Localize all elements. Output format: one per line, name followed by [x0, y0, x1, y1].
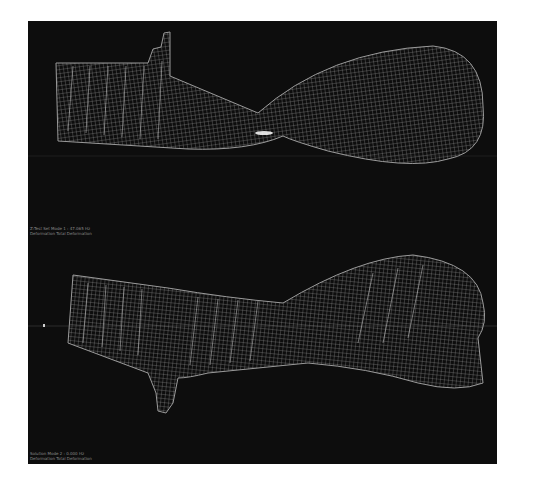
- wireframe-figure-panel: Z:Test Set Mode 1 : 47.065 Hz Deformatio…: [28, 21, 497, 464]
- caption-line-2: Deformation Total Deformation: [30, 456, 92, 461]
- view-caption-bottom: Solution Mode 2 : 0.000 Hz Deformation T…: [30, 451, 92, 461]
- twisted-plate-mesh-bottom: [28, 243, 497, 464]
- twisted-plate-mesh-top: [28, 21, 497, 243]
- mode-shape-view-top: Z:Test Set Mode 1 : 47.065 Hz Deformatio…: [28, 21, 497, 243]
- caption-line-2: Deformation Total Deformation: [30, 231, 92, 236]
- view-caption-top: Z:Test Set Mode 1 : 47.065 Hz Deformatio…: [30, 226, 92, 236]
- mode-shape-view-bottom: Solution Mode 2 : 0.000 Hz Deformation T…: [28, 243, 497, 464]
